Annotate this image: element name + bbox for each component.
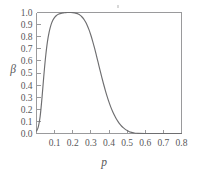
y-tick-label: 0.0 xyxy=(21,129,33,139)
x-axis-title: p xyxy=(100,156,107,169)
y-tick-label: 0.2 xyxy=(21,105,33,115)
y-tick-label: 1.0 xyxy=(21,8,33,18)
x-tick-label: 0.2 xyxy=(67,138,79,148)
x-tick-label: 0.5 xyxy=(121,138,133,148)
y-tick-label: 0.9 xyxy=(21,20,33,30)
x-tick-label: 0.4 xyxy=(103,138,115,148)
y-tick-label: 0.3 xyxy=(21,93,33,103)
y-tick-label: 0.8 xyxy=(21,32,33,42)
y-tick-label: 0.5 xyxy=(21,68,33,78)
y-tick-label: 0.1 xyxy=(21,117,33,127)
y-axis-tick-labels: 0.00.10.20.30.40.50.60.70.80.91.0 xyxy=(21,8,33,139)
chart-figure: 0.00.10.20.30.40.50.60.70.80.91.0 0.10.2… xyxy=(0,0,197,175)
x-tick-label: 0.6 xyxy=(139,138,151,148)
y-tick-label: 0.6 xyxy=(21,56,33,66)
y-tick-label: 0.4 xyxy=(21,81,33,91)
page-speck-artifact xyxy=(117,5,119,8)
chart-canvas: 0.00.10.20.30.40.50.60.70.80.91.0 0.10.2… xyxy=(0,0,197,175)
x-tick-label: 0.7 xyxy=(157,138,169,148)
y-tick-label: 0.7 xyxy=(21,44,33,54)
y-axis-title: β xyxy=(9,63,16,76)
x-tick-label: 0.8 xyxy=(176,138,188,148)
x-tick-label: 0.1 xyxy=(49,138,61,148)
x-tick-label: 0.3 xyxy=(85,138,97,148)
